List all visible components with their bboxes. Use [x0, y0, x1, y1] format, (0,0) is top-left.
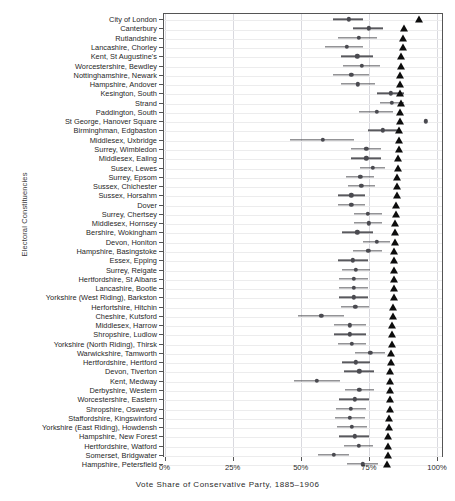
- mean-point-marker: [358, 175, 362, 179]
- y-axis-tick-label: Yorkshire (East Riding), Howdensh: [42, 423, 157, 432]
- data-row: Strand: [0, 98, 455, 107]
- mean-point-marker: [349, 406, 353, 410]
- data-row: Staffordshire, Kingswinford: [0, 413, 455, 422]
- mean-point-marker: [368, 351, 372, 355]
- max-triangle-marker: [389, 303, 397, 310]
- y-axis-tick: [159, 279, 163, 280]
- data-row: Hertfordshire, Hertford: [0, 358, 455, 367]
- y-axis-tick: [159, 130, 163, 131]
- max-triangle-marker: [388, 340, 396, 347]
- max-triangle-marker: [386, 368, 394, 375]
- y-axis-tick-label: Lancashire, Chorley: [91, 43, 157, 52]
- y-axis-tick-label: Surrey, Reigate: [106, 265, 157, 274]
- y-axis-tick: [159, 28, 163, 29]
- y-axis-tick-label: City of London: [109, 15, 157, 24]
- max-triangle-marker: [395, 127, 403, 134]
- data-row: Surrey, Reigate: [0, 265, 455, 274]
- y-axis-tick-label: Somerset, Bridgwater: [86, 450, 157, 459]
- y-axis-tick-label: Shropshire, Ludlow: [93, 330, 157, 339]
- y-axis-tick-label: Staffordshire, Kingswinford: [68, 413, 157, 422]
- data-row: Lancashire, Chorley: [0, 42, 455, 51]
- data-row: Surrey, Wimbledon: [0, 144, 455, 153]
- mean-point-marker: [351, 277, 355, 281]
- y-axis-tick-label: Derbyshire, Western: [89, 386, 157, 395]
- y-axis-tick: [159, 390, 163, 391]
- max-triangle-marker: [388, 322, 396, 329]
- x-axis-tick-label: 25%: [225, 463, 240, 472]
- y-axis-tick: [159, 140, 163, 141]
- max-triangle-marker: [393, 192, 401, 199]
- y-axis-tick: [159, 399, 163, 400]
- y-axis-tick-label: Hampshire, Andover: [90, 80, 157, 89]
- y-axis-tick: [159, 56, 163, 57]
- mean-point-marker: [349, 73, 353, 77]
- x-axis-tick: [233, 457, 234, 461]
- max-triangle-marker: [386, 377, 394, 384]
- y-axis-tick-label: Hampshire, Petersfield: [82, 460, 157, 469]
- y-axis-tick: [159, 66, 163, 67]
- mean-point-marker: [380, 128, 384, 132]
- y-axis-tick: [159, 186, 163, 187]
- y-axis-tick: [159, 112, 163, 113]
- mean-point-marker: [355, 230, 359, 234]
- y-axis-tick: [159, 75, 163, 76]
- x-axis-tick-label: 50%: [293, 463, 308, 472]
- mean-point-marker: [354, 267, 358, 271]
- mean-point-marker: [366, 212, 370, 216]
- data-row: Birminghman, Edgbaston: [0, 126, 455, 135]
- max-triangle-marker: [391, 229, 399, 236]
- x-axis-tick-label: 75%: [361, 463, 376, 472]
- mean-point-marker: [357, 36, 361, 40]
- x-axis-title: Vote Share of Conservative Party, 1885–1…: [0, 480, 455, 489]
- y-axis-tick: [159, 223, 163, 224]
- y-axis-tick-label: Rutlandshire: [115, 33, 157, 42]
- max-triangle-marker: [387, 349, 395, 356]
- mean-point-marker: [364, 147, 368, 151]
- mean-point-marker: [353, 304, 357, 308]
- y-axis-tick-label: Cheshire, Kutsford: [95, 311, 157, 320]
- y-axis-tick: [159, 446, 163, 447]
- y-axis-tick: [159, 251, 163, 252]
- data-row: Sussex, Horsahm: [0, 191, 455, 200]
- mean-point-marker: [355, 54, 359, 58]
- y-axis-tick-label: Devon, Honiton: [106, 237, 157, 246]
- y-axis-tick-label: Middlesex, Hornsey: [92, 219, 157, 228]
- y-axis-tick: [159, 270, 163, 271]
- data-row: Cheshire, Kutsford: [0, 311, 455, 320]
- mean-point-marker: [423, 119, 427, 123]
- mean-point-marker: [332, 453, 336, 457]
- max-triangle-marker: [387, 359, 395, 366]
- y-axis-tick-label: Lancashire, Bootle: [95, 284, 157, 293]
- x-axis-tick-label: 100%: [427, 463, 446, 472]
- mean-point-marker: [360, 63, 364, 67]
- data-row: Paddington, South: [0, 107, 455, 116]
- data-row: Worcestershire, Bewdley: [0, 61, 455, 70]
- data-row: Kent, St Augustine's: [0, 52, 455, 61]
- y-axis-tick-label: Sussex, Horsahm: [98, 191, 157, 200]
- data-row: Kesington, South: [0, 89, 455, 98]
- data-row: Bershire, Wokingham: [0, 228, 455, 237]
- y-axis-tick: [159, 436, 163, 437]
- max-triangle-marker: [397, 99, 405, 106]
- y-axis-tick: [159, 84, 163, 85]
- y-axis-tick-label: Devon, Tiverton: [105, 367, 157, 376]
- y-axis-tick-label: Hertfordshire, Hertford: [83, 358, 157, 367]
- y-axis-tick: [159, 47, 163, 48]
- mean-point-marker: [359, 184, 363, 188]
- mean-point-marker: [354, 360, 358, 364]
- data-row: Hampshire, Basingstoke: [0, 246, 455, 255]
- y-axis-tick: [159, 38, 163, 39]
- y-axis-tick: [159, 121, 163, 122]
- data-row: Essex, Epping: [0, 256, 455, 265]
- y-axis-tick-label: Yorkshire (West Riding), Barkston: [46, 293, 157, 302]
- mean-point-marker: [348, 323, 352, 327]
- y-axis-tick: [159, 455, 163, 456]
- mean-point-marker: [351, 258, 355, 262]
- data-row: Surrey, Epsom: [0, 172, 455, 181]
- data-row: Lancashire, Bootle: [0, 283, 455, 292]
- data-row: St George, Hanover Square: [0, 117, 455, 126]
- mean-point-marker: [349, 193, 353, 197]
- y-axis-tick-label: Bershire, Wokingham: [86, 228, 157, 237]
- y-axis-tick-label: Shropshire, Oswestry: [86, 404, 157, 413]
- mean-point-marker: [357, 388, 361, 392]
